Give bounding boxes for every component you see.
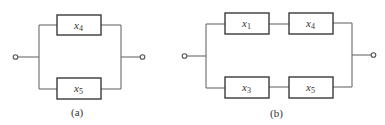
output-terminal-a: [140, 55, 145, 60]
reliability-diagrams: x4 x5 (a) x1 x4 x3 x5 (b): [0, 0, 385, 125]
caption-a: (a): [71, 106, 84, 119]
input-terminal-b: [182, 54, 187, 59]
caption-b: (b): [270, 107, 283, 120]
diagram-b: x1 x4 x3 x5 (b): [182, 13, 376, 120]
diagram-a: x4 x5 (a): [13, 15, 145, 119]
output-terminal-b: [371, 53, 376, 58]
input-terminal-a: [13, 55, 18, 60]
